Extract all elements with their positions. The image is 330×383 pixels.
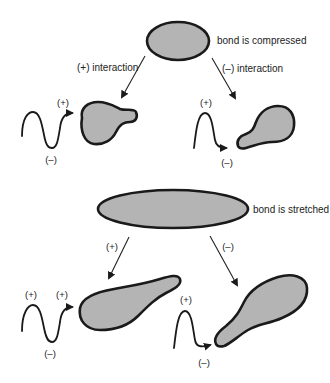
- wave-trough-label: (–): [45, 154, 57, 165]
- plus-interaction-label: (+) interaction: [77, 62, 138, 73]
- wave-trough-label: (–): [198, 357, 210, 368]
- wave-trough-label: (–): [221, 157, 233, 168]
- paddle-shape-bottom-left: [80, 276, 181, 330]
- stretched-bond-ellipse: [98, 190, 248, 228]
- wave-peak-label: (+): [180, 294, 192, 305]
- club-shape-bottom-right: [215, 275, 307, 346]
- diagram-svg: bond is compressed (+) interaction (–) i…: [0, 0, 330, 383]
- wave-minus-top-right: [194, 113, 226, 148]
- compressed-label: bond is compressed: [217, 35, 307, 46]
- wave-plus-top-left: [22, 112, 72, 148]
- diagram-canvas: bond is compressed (+) interaction (–) i…: [0, 0, 330, 383]
- wave-peak-label: (+): [200, 97, 212, 108]
- wave-trough-label: (–): [44, 348, 56, 359]
- wave-plus-bottom-left: [22, 305, 72, 342]
- plus-label: (+): [106, 241, 118, 252]
- wave-peak-label-right: (+): [56, 289, 68, 300]
- pear-shape-top-right: [237, 106, 294, 148]
- minus-interaction-label: (–) interaction: [222, 63, 283, 74]
- stretched-label: bond is stretched: [253, 204, 329, 215]
- compressed-bond-ellipse: [147, 22, 209, 60]
- wave-peak-label-left: (+): [25, 289, 37, 300]
- wave-peak-label: (+): [57, 97, 69, 108]
- pear-shape-top-left: [82, 102, 137, 144]
- wave-minus-bottom-right: [174, 311, 210, 348]
- minus-label: (–): [222, 241, 234, 252]
